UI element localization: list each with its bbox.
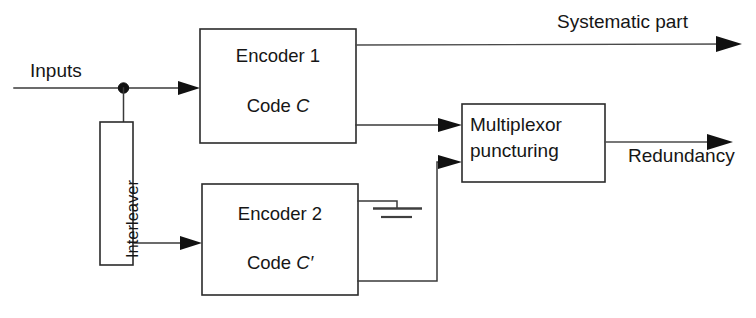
mux-lower-input-arrowhead xyxy=(438,155,462,169)
encoder2-block xyxy=(202,184,358,295)
encoder1-code-prefix: Code xyxy=(247,95,296,116)
encoder2-code-symbol: C′ xyxy=(296,252,313,273)
encoder1-title: Encoder 1 xyxy=(206,46,350,65)
encoder2-title: Encoder 2 xyxy=(208,204,352,223)
encoder1-input-arrowhead xyxy=(178,81,200,95)
multiplexor-title-line1: Multiplexor xyxy=(470,114,562,136)
interleaver-output-group xyxy=(133,236,202,250)
encoder2-input-arrowhead xyxy=(180,236,202,250)
systematic-output-arrowhead xyxy=(716,36,742,52)
systematic-output-wire xyxy=(356,44,731,45)
block-diagram-canvas: Inputs Systematic part Redundancy Encode… xyxy=(0,0,756,318)
encoder2-code-label: Code C′ xyxy=(208,253,352,272)
encoder2-code-prefix: Code xyxy=(247,252,296,273)
systematic-part-label: Systematic part xyxy=(557,12,688,32)
mux-upper-input-arrowhead xyxy=(438,118,462,132)
encoder1-redundancy-group xyxy=(356,118,462,132)
redundancy-label: Redundancy xyxy=(628,146,735,166)
encoder2-to-mux-wire xyxy=(358,162,452,281)
systematic-output-group xyxy=(356,36,742,52)
multiplexor-title-line2: puncturing xyxy=(470,140,559,162)
encoder1-code-label: Code C xyxy=(206,96,350,115)
encoder1-code-symbol: C xyxy=(296,95,309,116)
ground-stub-wire xyxy=(358,201,397,208)
ground-symbol-group xyxy=(358,201,422,217)
inputs-label: Inputs xyxy=(30,61,82,81)
interleaver-title: Interleaver xyxy=(124,180,141,258)
input-wire-group xyxy=(14,81,200,95)
